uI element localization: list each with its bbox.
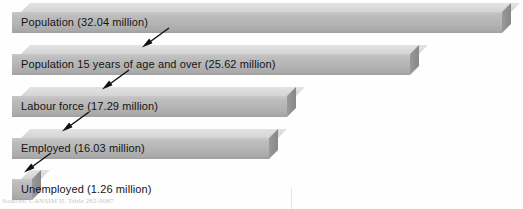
bar-population[interactable]: Population (32.04 million) [12, 3, 502, 33]
bar-population-15-plus-label: Population 15 years of age and over (25.… [21, 56, 275, 73]
bar-employed[interactable]: Employed (16.03 million) [12, 129, 269, 159]
page-edge-artifact [291, 188, 292, 209]
bar-labour-force-label: Labour force (17.29 million) [21, 98, 158, 115]
bar-unemployed-label: Unemployed (1.26 million) [21, 181, 152, 198]
bar-population-15-plus[interactable]: Population 15 years of age and over (25.… [12, 45, 410, 75]
bar-population-15-plus-top-face [21, 45, 428, 54]
bar-employed-label: Employed (16.03 million) [21, 140, 145, 157]
source-note: Sources: CANSIM II. Table 282-0087 [2, 197, 114, 205]
bar-population-label: Population (32.04 million) [21, 14, 148, 31]
flow-chart: Population (32.04 million) Population 15… [0, 0, 523, 209]
bar-labour-force-top-face [21, 87, 305, 96]
bar-unemployed[interactable]: Unemployed (1.26 million) [12, 170, 32, 200]
bar-population-top-face [21, 3, 520, 12]
bar-labour-force[interactable]: Labour force (17.29 million) [12, 87, 287, 117]
bar-employed-top-face [21, 129, 287, 138]
